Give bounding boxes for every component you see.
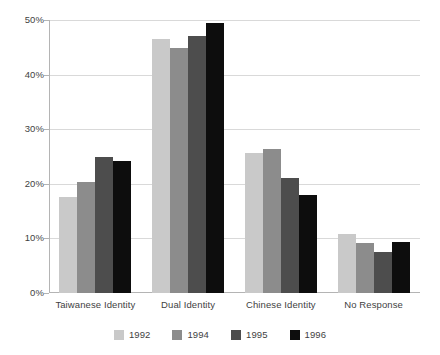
legend-item[interactable]: 1994 [172,329,209,340]
y-tick-label: 30% [4,124,44,134]
y-tick-label: 40% [4,70,44,80]
x-axis-labels: Taiwanese IdentityDual IdentityChinese I… [49,299,420,311]
bar-chart: 0%10%20%30%40%50% Taiwanese IdentityDual… [0,0,440,355]
legend-label: 1994 [187,329,209,340]
bar-group [235,20,328,293]
bar [338,234,356,294]
bar [299,195,317,293]
bar [113,161,131,293]
x-axis-category-label: Chinese Identity [235,299,328,311]
bar [95,157,113,293]
bar [281,178,299,293]
y-tick-label: 20% [4,179,44,189]
y-tick-label: 50% [4,15,44,25]
legend-label: 1996 [305,329,327,340]
legend-swatch-icon [231,330,241,340]
legend: 1992199419951996 [0,329,440,340]
bar [206,23,224,293]
bar [77,182,95,293]
legend-swatch-icon [290,330,300,340]
legend-item[interactable]: 1996 [290,329,327,340]
y-tick-label: 0% [4,288,44,298]
legend-label: 1995 [246,329,268,340]
legend-swatch-icon [114,330,124,340]
bar [245,153,263,293]
x-axis-category-label: Taiwanese Identity [49,299,142,311]
bar [263,149,281,293]
bar-groups [49,20,420,293]
y-tick-label: 10% [4,233,44,243]
x-axis-category-label: No Response [327,299,420,311]
bar [392,242,410,293]
bar [356,243,374,293]
bar [188,36,206,293]
legend-swatch-icon [172,330,182,340]
legend-item[interactable]: 1992 [114,329,151,340]
bar-group [327,20,420,293]
y-tick-mark [44,293,49,294]
legend-item[interactable]: 1995 [231,329,268,340]
bar [59,197,77,293]
bar [374,252,392,293]
bar [152,39,170,293]
x-axis-category-label: Dual Identity [142,299,235,311]
bar [170,48,188,293]
bar-group [49,20,142,293]
bar-group [142,20,235,293]
legend-label: 1992 [129,329,151,340]
